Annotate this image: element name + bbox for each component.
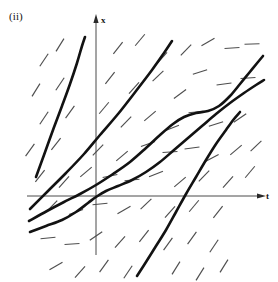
slope-field-tick: [188, 232, 197, 244]
slope-field-tick: [245, 44, 260, 45]
direction-field-figure: (ii) x t: [0, 0, 278, 282]
slope-field-tick: [141, 199, 152, 209]
slope-field-tick: [217, 83, 232, 85]
slope-field-tick: [210, 240, 218, 252]
slope-field-tick: [51, 138, 60, 150]
slope-field-tick: [56, 78, 64, 90]
slope-field-tick: [75, 266, 85, 277]
slope-field-tick: [193, 70, 207, 75]
slope-field-tick: [245, 166, 255, 178]
slope-field-tick: [50, 262, 63, 270]
slope-field-tick: [209, 122, 223, 127]
slope-field-tick: [139, 230, 148, 242]
slope-field-tick: [202, 38, 215, 46]
solution-curve: [30, 41, 172, 209]
slope-field-tick: [174, 177, 186, 187]
x-axis-arrowhead: [93, 14, 98, 23]
slope-field-tick: [99, 102, 109, 114]
slope-field-tick: [149, 171, 163, 177]
direction-field-plot: x t: [0, 0, 278, 282]
t-axis-arrowhead: [257, 193, 266, 198]
slope-field-tick: [118, 206, 131, 214]
slope-field-tick: [113, 42, 122, 54]
slope-field-tick: [124, 266, 132, 278]
slope-field-tick: [80, 167, 92, 177]
slope-field-tick: [220, 260, 228, 273]
slope-field-tick: [225, 47, 240, 48]
slope-field-tick: [41, 237, 56, 239]
slope-field-tick: [116, 151, 128, 161]
slope-field-tick: [32, 84, 40, 97]
slope-field-tick: [40, 54, 48, 66]
slope-field-tick: [26, 144, 35, 156]
slope-field-tick: [181, 45, 191, 56]
slope-field-tick: [65, 243, 80, 244]
slope-field-tick: [241, 77, 256, 78]
slope-field-tick: [185, 147, 200, 149]
slope-field-tick: [40, 112, 48, 124]
slope-field-tick: [144, 111, 156, 121]
slope-field-tick: [56, 39, 64, 52]
x-axis-label: x: [101, 15, 106, 25]
slope-field-tick: [66, 106, 75, 118]
slope-field-tick: [100, 260, 109, 272]
slope-field-tick: [135, 34, 145, 46]
solution-curve: [36, 37, 85, 177]
slope-field-tick: [93, 203, 108, 205]
slope-field-tick: [153, 71, 164, 81]
slope-field-tick: [93, 145, 103, 156]
slope-field-tick: [230, 145, 242, 155]
slope-field-tick: [174, 90, 186, 99]
slope-field-tick: [223, 176, 233, 187]
slope-field-tick: [164, 238, 173, 250]
t-axis-label: t: [266, 191, 269, 201]
slope-field-tick: [199, 171, 209, 182]
slope-field-tick: [115, 236, 125, 247]
slope-field-tick: [213, 206, 222, 218]
slope-field-tick: [172, 262, 180, 275]
slope-field-tick: [189, 200, 199, 212]
slope-field-tick: [251, 141, 262, 151]
solution-curves-group: [29, 37, 264, 276]
slope-field-tick: [105, 72, 114, 84]
slope-field-tick: [121, 117, 131, 128]
slope-field-tick: [196, 268, 204, 281]
slope-field-group: [26, 34, 262, 280]
solution-curve: [30, 80, 264, 232]
